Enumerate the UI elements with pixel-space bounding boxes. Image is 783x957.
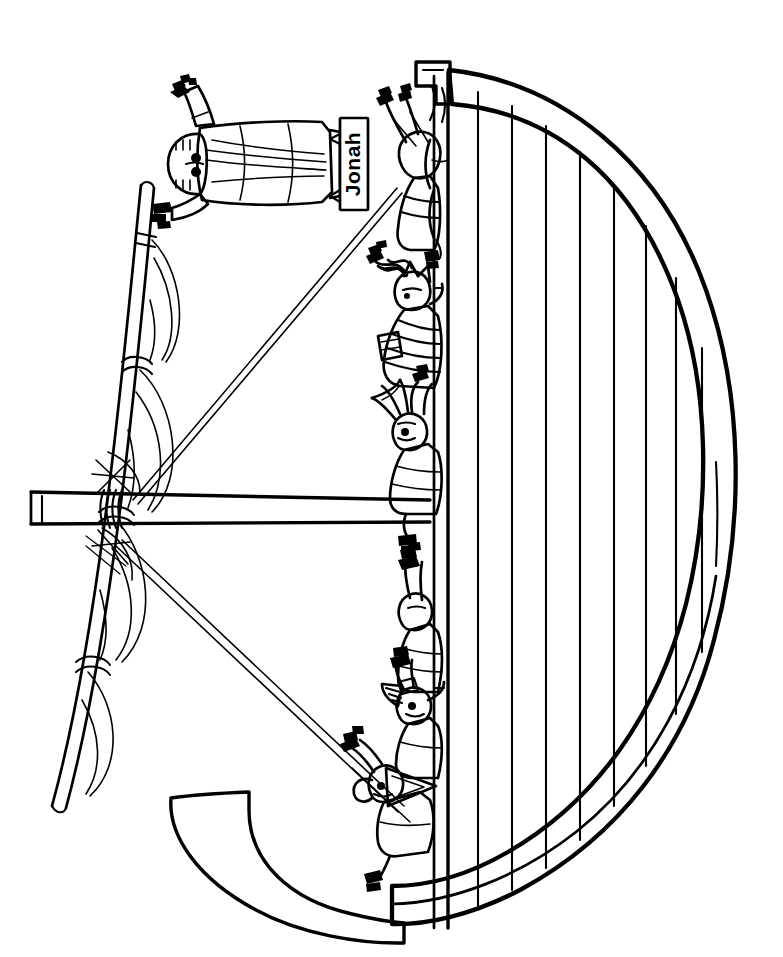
coloring-page-canvas: Jonah Thrown From the Ship [0, 0, 783, 957]
name-sign-text: Jonah [341, 132, 364, 196]
jonah-ship-illustration: Jonah [0, 0, 783, 957]
